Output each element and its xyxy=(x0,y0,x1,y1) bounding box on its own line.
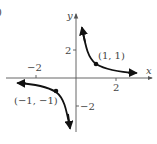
curve-arrow-up xyxy=(82,28,85,42)
figure-part-label: ) xyxy=(0,6,2,17)
point-label-neg1-neg1: (−1, −1) xyxy=(14,95,58,106)
x-tick-label-2: 2 xyxy=(113,82,119,93)
y-tick-label-2: 2 xyxy=(65,45,71,56)
point-1-1 xyxy=(94,62,99,67)
y-tick-label-neg2: −2 xyxy=(80,101,95,112)
y-axis-label: y xyxy=(66,10,73,21)
x-tick-label-neg2: −2 xyxy=(27,62,42,73)
point-neg1-neg1 xyxy=(54,89,59,94)
point-label-1-1: (1, 1) xyxy=(98,50,125,61)
curve-arrow-down xyxy=(68,114,70,128)
x-axis-label: x xyxy=(146,65,152,76)
graph-figure: ) x y −2 2 2 −2 (1, 1) (−1, −1) xyxy=(0,0,157,144)
